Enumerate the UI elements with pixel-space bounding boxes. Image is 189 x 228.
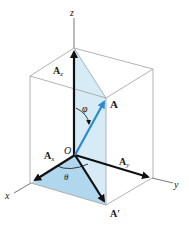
- origin-label: O: [64, 145, 71, 156]
- x-axis-label: x: [4, 190, 10, 201]
- y-axis-label: y: [173, 179, 179, 190]
- z-axis-label: z: [69, 7, 74, 18]
- vector-components-diagram: z x y Az A φ O Ax θ Ay A′: [0, 0, 189, 228]
- A-prime-label: A′: [110, 208, 120, 219]
- x-axis: [14, 183, 31, 193]
- Az-label: Az: [53, 65, 63, 78]
- phi-label: φ: [82, 103, 88, 114]
- theta-label: θ: [64, 172, 69, 182]
- y-axis: [152, 178, 173, 183]
- Ax-label: Ax: [44, 150, 55, 163]
- Ay-label: Ay: [119, 156, 130, 169]
- A-label: A: [110, 98, 118, 110]
